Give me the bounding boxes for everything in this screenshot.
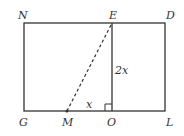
geometry-diagram: N E D G M O L 2x x [0, 0, 184, 136]
label-EO-length: 2x [114, 64, 129, 77]
label-M: M [61, 116, 74, 129]
rectangle-GNDL [24, 23, 165, 111]
label-D: D [165, 9, 175, 22]
right-angle-mark [105, 104, 112, 111]
label-E: E [108, 9, 117, 22]
point-M-dot [65, 109, 68, 112]
label-G: G [19, 116, 28, 129]
label-N: N [17, 9, 28, 22]
label-L: L [165, 116, 173, 129]
label-O: O [107, 116, 116, 129]
label-MO-length: x [86, 98, 93, 111]
